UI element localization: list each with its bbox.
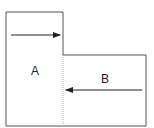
region-b-label: B <box>101 72 109 86</box>
region-a-label: A <box>31 64 39 78</box>
diagram-canvas: A B <box>0 0 154 128</box>
region-outline <box>6 12 146 126</box>
